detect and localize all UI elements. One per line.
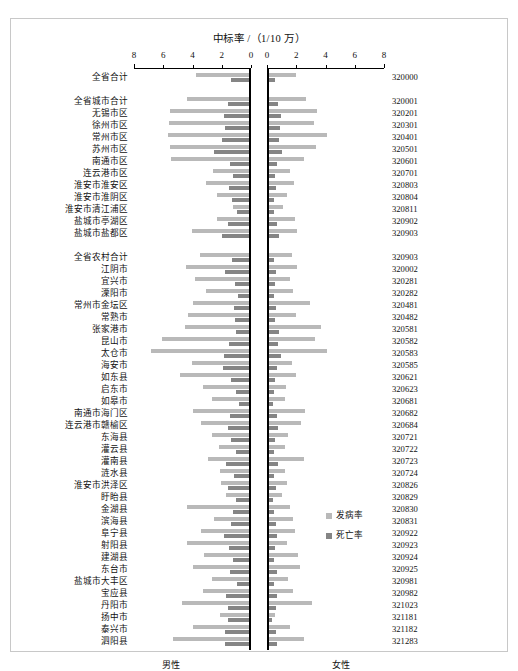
row-code: 320301 [392, 119, 452, 131]
bar-mortality-right [267, 114, 281, 118]
bar-incidence-right [267, 361, 292, 365]
bar-mortality-left [228, 486, 251, 490]
row-code: 320001 [392, 95, 452, 107]
row-code: 321182 [392, 623, 452, 635]
row-label: 盱眙县 [0, 491, 128, 503]
row-label: 连云港市赣榆区 [0, 419, 128, 431]
row-label: 盐城市盐都区 [0, 227, 128, 239]
row-label: 淮安市淮阴区 [0, 191, 128, 203]
bar-incidence-left [192, 229, 251, 233]
bar-incidence-left [201, 529, 251, 533]
bar-incidence-right [267, 385, 286, 389]
axis-tick [355, 65, 356, 68]
row-code: 320722 [392, 443, 452, 455]
bar-incidence-right [267, 589, 293, 593]
row-label: 东海县 [0, 431, 128, 443]
bar-incidence-left [171, 157, 251, 161]
row-code: 320481 [392, 299, 452, 311]
bar-incidence-right [267, 457, 304, 461]
bar-incidence-right [267, 145, 316, 149]
right-tick-label-2: 2 [294, 50, 299, 60]
bar-incidence-right [267, 289, 293, 293]
bar-incidence-right [267, 445, 285, 449]
legend-item: 死亡率 [326, 528, 363, 540]
row-label: 盐城市大丰区 [0, 575, 128, 587]
bar-incidence-left [187, 541, 251, 545]
bar-incidence-right [267, 133, 327, 137]
row-code: 320804 [392, 191, 452, 203]
bar-incidence-right [267, 73, 296, 77]
row-label: 泰兴市 [0, 623, 128, 635]
row-code: 320924 [392, 551, 452, 563]
group-label-female: 女性 [332, 658, 350, 671]
bar-incidence-right [267, 409, 305, 413]
bar-incidence-left [201, 421, 251, 425]
bar-incidence-left [193, 565, 251, 569]
row-code: 320501 [392, 143, 452, 155]
row-label: 灌云县 [0, 443, 128, 455]
row-label: 南通市区 [0, 155, 128, 167]
row-code: 320623 [392, 383, 452, 395]
bar-incidence-right [267, 637, 304, 641]
bar-incidence-left [221, 481, 251, 485]
bar-incidence-right [267, 325, 321, 329]
bar-incidence-left [212, 433, 251, 437]
bar-mortality-left [224, 354, 251, 358]
row-label: 如皋市 [0, 395, 128, 407]
bar-incidence-right [267, 541, 287, 545]
bar-mortality-left [228, 426, 251, 430]
bar-mortality-left [225, 126, 251, 130]
axis-tick [251, 65, 252, 68]
bar-incidence-right [267, 337, 315, 341]
row-label: 涟水县 [0, 467, 128, 479]
row-label: 常州市区 [0, 131, 128, 143]
row-label: 扬中市 [0, 611, 128, 623]
bar-mortality-left [226, 462, 251, 466]
bar-incidence-left [185, 325, 251, 329]
row-label: 如东县 [0, 371, 128, 383]
row-code: 321023 [392, 599, 452, 611]
bar-incidence-left [206, 289, 251, 293]
row-code: 320724 [392, 467, 452, 479]
bar-incidence-left [186, 265, 251, 269]
bar-mortality-left [222, 234, 251, 238]
right-tick-label-6: 6 [353, 50, 358, 60]
row-code: 320681 [392, 395, 452, 407]
row-code: 320684 [392, 419, 452, 431]
bar-mortality-left [224, 114, 251, 118]
bar-mortality-left [222, 138, 251, 142]
row-label: 丹阳市 [0, 599, 128, 611]
row-code: 320831 [392, 515, 452, 527]
row-label: 连云港市区 [0, 167, 128, 179]
bar-incidence-left [170, 109, 251, 113]
bar-incidence-left [212, 577, 251, 581]
bar-incidence-right [267, 505, 290, 509]
bar-mortality-right [267, 150, 282, 154]
row-code: 321283 [392, 635, 452, 647]
bar-incidence-left [193, 409, 251, 413]
bar-incidence-right [267, 109, 317, 113]
bar-incidence-right [267, 349, 327, 353]
row-label: 无锡市区 [0, 107, 128, 119]
centre-spine [267, 68, 269, 650]
row-code: 320581 [392, 323, 452, 335]
row-code: 320982 [392, 587, 452, 599]
row-label: 昆山市 [0, 335, 128, 347]
bar-incidence-left [220, 613, 251, 617]
row-code: 320830 [392, 503, 452, 515]
bar-incidence-left [203, 385, 251, 389]
row-code: 320002 [392, 263, 452, 275]
bar-incidence-right [267, 433, 288, 437]
bar-incidence-right [267, 157, 304, 161]
axis-line [134, 68, 251, 69]
bar-incidence-left [196, 73, 251, 77]
bar-mortality-left [225, 630, 251, 634]
bar-incidence-right [267, 169, 290, 173]
axis-tick [384, 64, 385, 68]
bar-incidence-left [180, 373, 251, 377]
axis-tick [163, 65, 164, 68]
bar-incidence-right [267, 181, 294, 185]
bar-incidence-right [267, 193, 287, 197]
bar-incidence-right [267, 601, 312, 605]
